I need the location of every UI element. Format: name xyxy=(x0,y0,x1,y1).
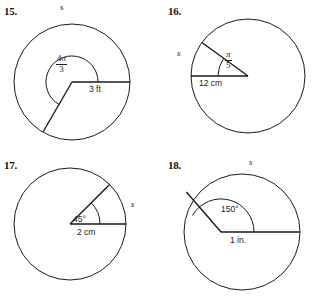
radius-label-15: 3 ft xyxy=(89,85,101,94)
radius-label-16: 12 cm xyxy=(199,79,222,88)
radius-label-17: 2 cm xyxy=(77,228,95,237)
figure-16 xyxy=(164,0,328,154)
problem-15: 15. s 4π 3 3 ft xyxy=(0,0,164,154)
angle-arc-16 xyxy=(218,58,224,76)
figure-15 xyxy=(0,0,164,154)
worksheet-grid: 15. s 4π 3 3 ft 16. xyxy=(0,0,328,307)
arc-length-label-15: s xyxy=(60,3,64,12)
angle-label-15: 4π 3 xyxy=(56,54,67,74)
radius-terminal-18 xyxy=(186,192,221,232)
arc-length-label-16: s xyxy=(177,49,181,58)
angle-numerator-15: 4π xyxy=(56,54,67,65)
radius-label-18: 1 in. xyxy=(230,236,246,245)
angle-numerator-16: π xyxy=(225,50,232,61)
arc-length-label-17: s xyxy=(131,200,135,209)
angle-arc-15 xyxy=(46,56,98,105)
angle-label-18: 150° xyxy=(221,205,239,214)
figure-18 xyxy=(164,154,328,307)
problem-18: 18. s 150° 1 in. xyxy=(164,154,328,307)
arc-length-label-18: s xyxy=(249,158,253,167)
angle-denominator-16: 5 xyxy=(225,61,232,71)
angle-label-16: π 5 xyxy=(225,50,232,70)
problem-16: 16. s π 5 12 cm xyxy=(164,0,328,154)
angle-label-17: 45° xyxy=(73,215,86,224)
angle-denominator-15: 3 xyxy=(56,65,67,75)
angle-arc-17 xyxy=(91,203,100,224)
problem-17: 17. s 45° 2 cm xyxy=(0,154,164,307)
